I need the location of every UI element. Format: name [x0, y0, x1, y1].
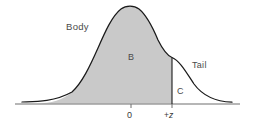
axis-tick-label-zero: 0 — [127, 111, 132, 120]
normal-distribution-figure: Body Tail B C 0 +z — [0, 0, 254, 127]
body-label: Body — [66, 22, 89, 32]
region-c-label: C — [177, 87, 184, 96]
region-b-label: B — [128, 53, 134, 62]
body-region-fill — [36, 6, 172, 103]
tail-label: Tail — [192, 61, 207, 70]
z-symbol: z — [169, 110, 173, 120]
distribution-curve-svg — [0, 0, 254, 127]
axis-tick-label-z: +z — [164, 111, 173, 120]
